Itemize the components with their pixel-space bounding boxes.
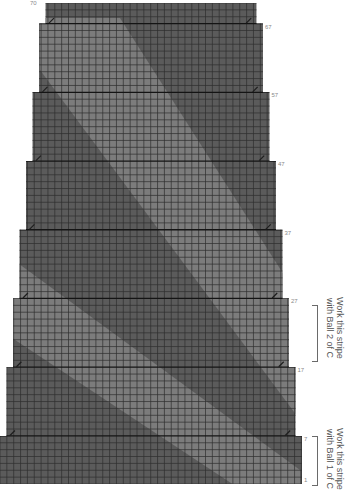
- row-label-17: 17: [297, 367, 304, 373]
- row-label-47: 47: [278, 161, 285, 167]
- stripe-note: Work this stripewith Ball 1 of C: [325, 428, 345, 490]
- row-label-27: 27: [291, 298, 298, 304]
- row-label-37: 37: [284, 230, 291, 236]
- row-label-70: 70: [30, 0, 37, 6]
- stripe-note: Work this stripewith Ball 2 of C: [325, 297, 345, 359]
- row-label-7: 7: [304, 436, 307, 442]
- row-label-1: 1: [304, 477, 307, 483]
- stripe-bracket: [312, 305, 318, 362]
- row-label-57: 57: [271, 92, 278, 98]
- stripe-bracket: [312, 436, 318, 486]
- row-label-67: 67: [265, 24, 272, 30]
